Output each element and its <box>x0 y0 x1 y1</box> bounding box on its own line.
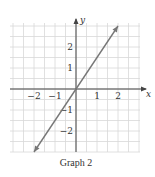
line-arrow-end-icon <box>113 26 118 32</box>
y-axis-arrow-icon <box>74 18 79 24</box>
x-tick-label: 1 <box>94 91 100 101</box>
x-tick-label: −2 <box>27 91 40 101</box>
x-tick-label: −1 <box>48 91 61 101</box>
grid <box>10 23 140 152</box>
y-tick-label: 1 <box>67 63 73 73</box>
y-tick-label: −2 <box>60 126 73 136</box>
y-tick-label: 2 <box>67 42 73 52</box>
chart-caption: Graph 2 <box>60 157 93 168</box>
line-arrow-start-icon <box>34 146 39 152</box>
y-axis-label: y <box>79 15 86 25</box>
x-axis-label: x <box>146 89 151 99</box>
x-tick-label: 2 <box>115 91 121 101</box>
chart: −2−11221−1−2 x y Graph 2 <box>0 0 155 177</box>
